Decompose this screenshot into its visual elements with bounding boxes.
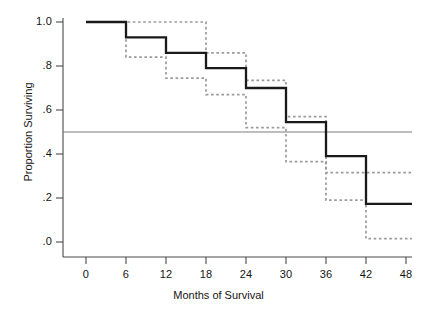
x-tick-label-48: 48 [391, 268, 421, 280]
lower-ci-curve [86, 22, 412, 239]
x-axis-ticks [86, 257, 406, 264]
axis-lines [63, 18, 412, 257]
x-tick-label-18: 18 [191, 268, 221, 280]
y-axis-title: Proportion Surviving [22, 52, 34, 212]
x-tick-label-42: 42 [351, 268, 381, 280]
x-tick-label-30: 30 [271, 268, 301, 280]
survival-chart-figure: 1.0 .8 .6 .4 .2 .0 0 6 12 18 24 30 36 42… [0, 0, 437, 317]
x-tick-label-6: 6 [111, 268, 141, 280]
x-tick-label-36: 36 [311, 268, 341, 280]
survival-curve [86, 22, 412, 204]
y-axis-ticks [56, 22, 63, 242]
y-tick-label-0.0: .0 [22, 235, 52, 247]
y-tick-label-1.0: 1.0 [22, 15, 52, 27]
x-axis-title: Months of Survival [0, 289, 437, 301]
x-tick-label-0: 0 [71, 268, 101, 280]
x-tick-label-12: 12 [151, 268, 181, 280]
x-tick-label-24: 24 [231, 268, 261, 280]
upper-ci-curve [86, 22, 412, 173]
